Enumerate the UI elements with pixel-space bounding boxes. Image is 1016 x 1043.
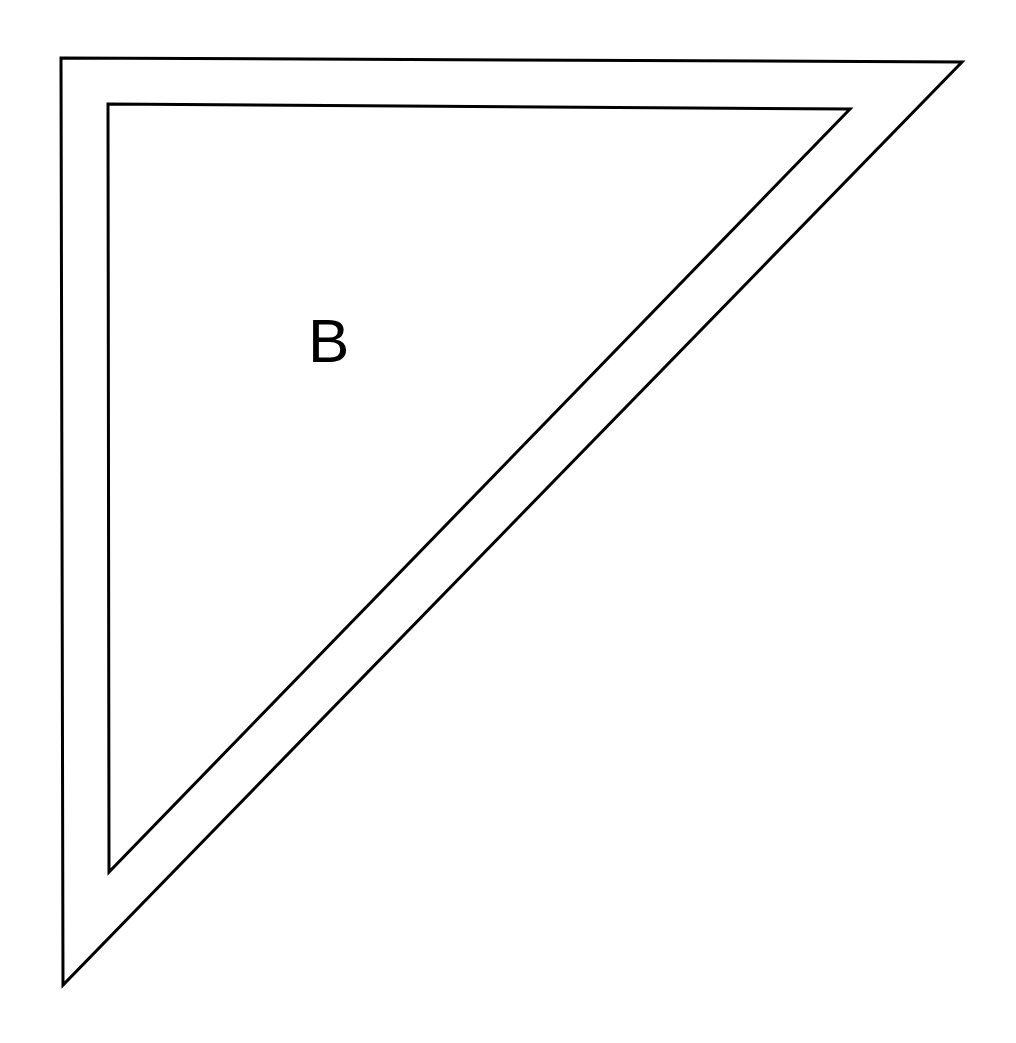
inner-triangle bbox=[108, 104, 850, 872]
region-label-b: B bbox=[308, 310, 349, 372]
diagram-canvas bbox=[0, 0, 1016, 1043]
outer-triangle bbox=[61, 58, 962, 985]
